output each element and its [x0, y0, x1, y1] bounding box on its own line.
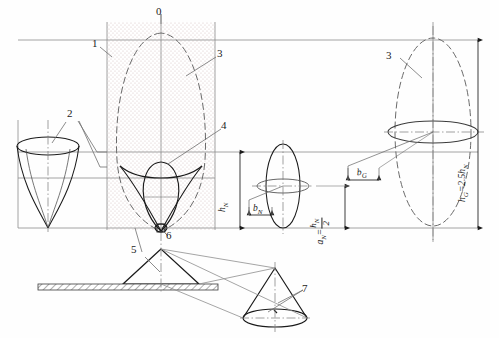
h-g-symbol: h: [457, 197, 467, 202]
figure-canvas: 0 1 3 2 4 3 6 5 7 hN bN aN=hN2 bG hG=2.5…: [0, 0, 499, 338]
callout-label-7: 7: [302, 283, 308, 294]
a-n-equals: =: [315, 229, 325, 235]
callout-2-leader: [52, 121, 107, 178]
right-centerlines: [384, 26, 484, 240]
h-g-subscript: G: [462, 192, 470, 197]
callout-label-4: 4: [221, 120, 227, 131]
callout-label-0: 0: [156, 6, 162, 17]
diagram-svg: [0, 0, 499, 338]
a-n-fraction: hN2: [309, 218, 332, 229]
h-g-ref-symbol: h: [457, 169, 467, 174]
callout-label-3b: 3: [386, 50, 392, 61]
dimension-label-h-n: hN: [218, 202, 230, 211]
h-g-factor: 2.5: [457, 174, 467, 186]
b-g-subscript: G: [362, 172, 368, 180]
a-n-numerator-sub: N: [313, 219, 321, 224]
a-n-numerator: h: [308, 223, 318, 228]
a-n-denominator: 2: [323, 218, 332, 229]
callout-label-5: 5: [131, 244, 137, 255]
h-n-symbol: h: [217, 207, 227, 212]
h-g-ref-subscript: N: [462, 164, 470, 169]
dimension-label-b-g: bG: [357, 168, 368, 181]
h-n-subscript: N: [222, 202, 230, 207]
projected-cone-centerlines: [240, 262, 310, 332]
callout-label-1: 1: [92, 38, 98, 49]
construction-lines: [18, 40, 478, 228]
ground-hatch-strip: [38, 284, 218, 290]
callout-label-2: 2: [67, 108, 73, 119]
dimension-label-h-g: hG=2.5hN: [458, 164, 470, 202]
b-n-subscript: N: [258, 208, 263, 216]
callout-leaders-bottom: [135, 228, 303, 312]
small-ellipse-centerlines: [252, 140, 314, 234]
h-g-equals: =: [457, 186, 467, 192]
callout-label-3a: 3: [217, 48, 223, 59]
a-n-subscript: N: [320, 235, 328, 240]
dimension-label-a-n: aN=hN2: [309, 218, 332, 245]
a-n-symbol: a: [315, 240, 325, 245]
dimension-label-b-n: bN: [253, 204, 262, 216]
callout-label-6: 6: [166, 230, 172, 241]
